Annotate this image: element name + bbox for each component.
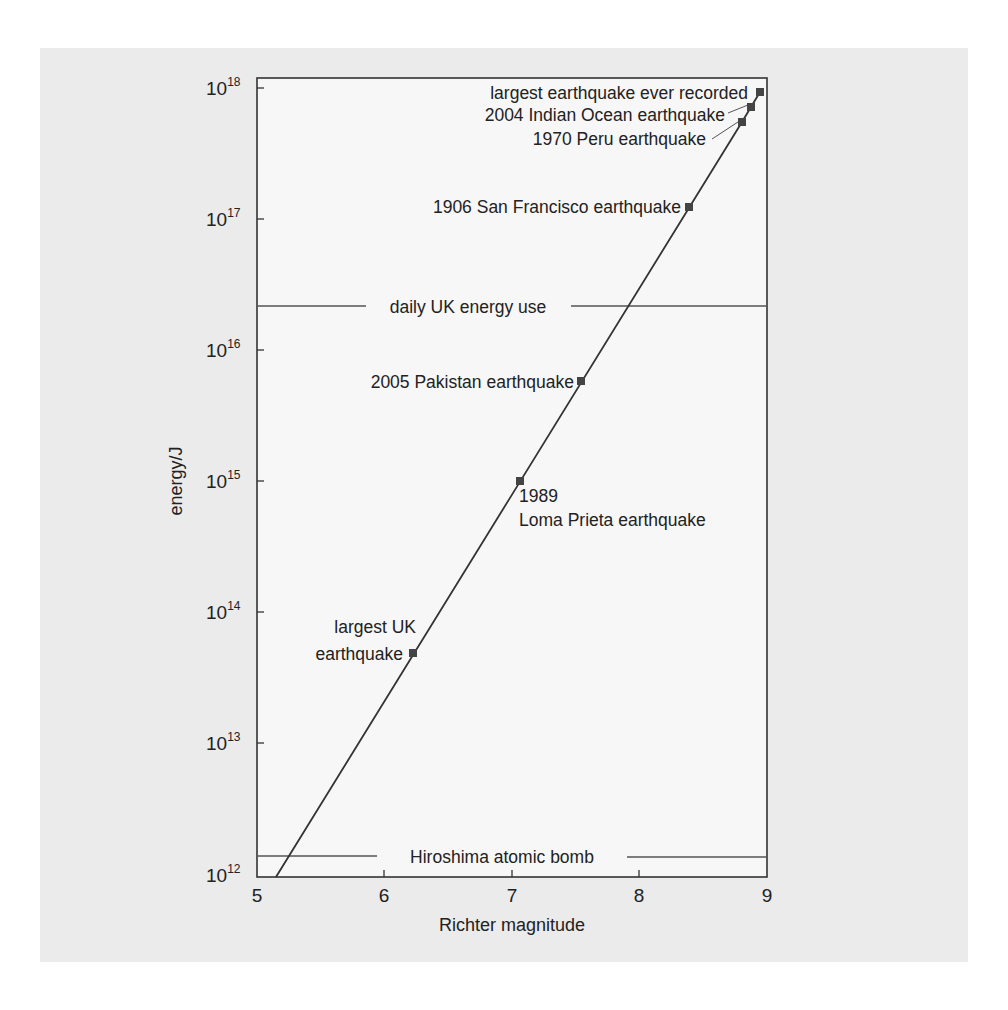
marker-indian-ocean [747,103,755,111]
y-tick-label: 1013 [206,730,241,754]
x-tick-label: 6 [379,885,390,906]
annotation-pakistan: 2005 Pakistan earthquake [371,372,574,392]
y-tick-label: 1012 [206,862,241,886]
marker-uk [409,649,417,657]
reference-label: daily UK energy use [390,297,547,317]
annotation-uk-1: largest UK [334,617,416,637]
x-axis-title: Richter magnitude [439,915,585,935]
annotation-loma-2: Loma Prieta earthquake [519,510,706,530]
annotation-indian-ocean: 2004 Indian Ocean earthquake [485,105,725,125]
annotation-peru: 1970 Peru earthquake [533,129,706,149]
x-tick-label: 8 [634,885,645,906]
x-tick-label: 7 [507,885,518,906]
y-axis-title: energy/J [166,446,186,515]
reference-label: Hiroshima atomic bomb [410,847,594,867]
chart-svg: 1018 1017 1016 1015 1014 1013 1012 5 6 7… [0,0,1008,1010]
x-tick-label: 9 [762,885,773,906]
marker-peru [738,118,746,126]
marker-pakistan [577,377,585,385]
x-axis-labels: 5 6 7 8 9 [252,885,773,906]
marker-loma-prieta [516,477,524,485]
x-tick-label: 5 [252,885,263,906]
y-tick-label: 1015 [206,468,241,492]
marker-san-francisco [685,203,693,211]
y-tick-label: 1018 [206,75,241,99]
annotation-loma-1: 1989 [519,486,558,506]
annotation-largest: largest earthquake ever recorded [490,83,748,103]
y-tick-label: 1017 [206,206,241,230]
y-tick-label: 1016 [206,337,241,361]
y-axis-labels: 1018 1017 1016 1015 1014 1013 1012 [206,75,241,886]
marker-largest [756,88,764,96]
y-tick-label: 1014 [206,599,241,623]
annotation-san-francisco: 1906 San Francisco earthquake [433,197,681,217]
annotation-uk-2: earthquake [315,644,403,664]
